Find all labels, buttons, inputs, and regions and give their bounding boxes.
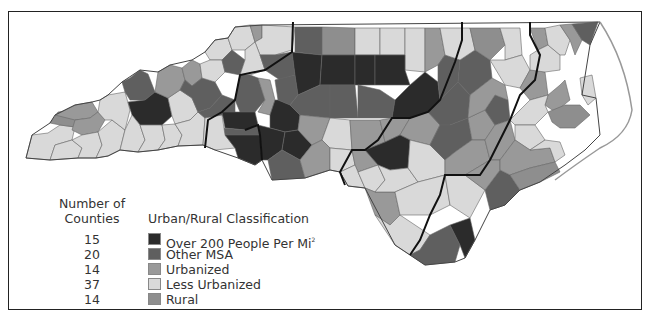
- county: [330, 85, 358, 118]
- legend-classification-header: Urban/Rural Classification: [148, 211, 309, 226]
- county: [260, 52, 295, 80]
- county: [365, 188, 400, 225]
- county: [380, 28, 405, 55]
- legend-row-over-200: 15 Over 200 People Per Mi2: [0, 232, 320, 247]
- legend-swatch: [148, 278, 161, 290]
- county: [375, 55, 410, 85]
- legend-label: Rural: [166, 292, 198, 307]
- legend-label: Less Urbanized: [166, 277, 261, 292]
- county: [355, 28, 380, 55]
- county: [405, 28, 425, 72]
- legend-row-other-msa: 20 Other MSA: [0, 247, 320, 262]
- county: [510, 95, 548, 125]
- county: [355, 55, 375, 85]
- legend-swatch: [148, 293, 161, 305]
- county: [320, 55, 355, 85]
- county: [322, 27, 355, 55]
- legend-counts-header: Number of Counties: [52, 196, 132, 226]
- legend-row-rural: 14 Rural: [0, 292, 320, 307]
- legend-count: 14: [52, 262, 132, 277]
- county: [295, 27, 322, 55]
- legend-swatch: [148, 263, 161, 275]
- legend-label: Other MSA: [166, 247, 233, 262]
- legend-swatch: [148, 233, 161, 245]
- county: [358, 85, 395, 118]
- county: [200, 60, 225, 82]
- legend-count: 37: [52, 277, 132, 292]
- legend-label: Urbanized: [166, 262, 229, 277]
- legend-count: 15: [52, 232, 132, 247]
- legend-count: 14: [52, 292, 132, 307]
- legend-row-urbanized: 14 Urbanized: [0, 262, 320, 277]
- legend-count: 20: [52, 247, 132, 262]
- county: [122, 70, 155, 100]
- legend-swatch: [148, 248, 161, 260]
- legend-row-less-urbanized: 37 Less Urbanized: [0, 277, 320, 292]
